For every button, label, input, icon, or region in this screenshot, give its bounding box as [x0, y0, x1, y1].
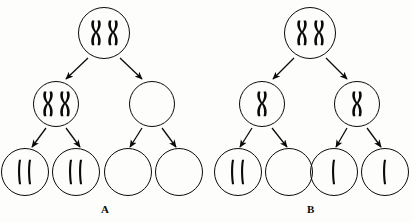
panel-a-gamete-2 [52, 148, 100, 196]
panel-a-arrow-left-to-g1 [32, 128, 46, 147]
cell-division-diagram: AB [0, 0, 412, 222]
rod-chromosome-icon [68, 159, 75, 185]
replicated-chromosome-icon [89, 20, 103, 46]
panel-a-daughter-right [129, 81, 175, 127]
rod-chromosome-icon [78, 159, 85, 185]
panel-b-arrow-left-to-g2 [272, 128, 287, 147]
panel-b-arrow-right-to-g3 [336, 128, 347, 147]
replicated-chromosome-icon [312, 20, 326, 46]
rod-chromosome-icon [17, 159, 24, 185]
replicated-chromosome-icon [41, 91, 55, 117]
panel-b-arrow-parent-to-right [326, 58, 347, 79]
chromosome-set [79, 8, 129, 58]
panel-b-gamete-2 [265, 148, 313, 196]
chromosome-set [156, 149, 202, 195]
chromosome-set [335, 82, 379, 126]
panel-b-gamete-3 [310, 148, 358, 196]
panel-a-parent-cell [78, 7, 130, 59]
rod-chromosome-icon [331, 159, 338, 185]
chromosome-set [2, 149, 48, 195]
panel-a-arrow-left-to-g2 [66, 128, 80, 147]
panel-label-b: B [307, 203, 315, 215]
panel-b-arrow-right-to-g4 [367, 128, 381, 147]
rod-chromosome-icon [230, 159, 237, 185]
chromosome-set [362, 149, 408, 195]
panel-a-arrow-parent-to-left [66, 58, 88, 79]
panel-a-gamete-3 [104, 148, 152, 196]
chromosome-set [105, 149, 151, 195]
panel-b-gamete-4 [361, 148, 409, 196]
replicated-chromosome-icon [255, 91, 269, 117]
replicated-chromosome-icon [106, 20, 120, 46]
panel-b-daughter-right [334, 81, 380, 127]
chromosome-set [53, 149, 99, 195]
chromosome-set [130, 82, 174, 126]
panel-a-gamete-1 [1, 148, 49, 196]
panel-a-arrow-parent-to-right [120, 58, 142, 79]
chromosome-set [311, 149, 357, 195]
chromosome-set [240, 82, 284, 126]
panel-b-arrow-left-to-g1 [240, 128, 252, 147]
panel-b-gamete-1 [214, 148, 262, 196]
panel-b-parent-cell [284, 7, 336, 59]
panel-a-gamete-4 [155, 148, 203, 196]
panel-label-a: A [101, 203, 109, 215]
panel-b-arrow-parent-to-left [273, 58, 294, 79]
chromosome-set [215, 149, 261, 195]
rod-chromosome-icon [27, 159, 34, 185]
replicated-chromosome-icon [350, 91, 364, 117]
panel-a-daughter-left [33, 81, 79, 127]
replicated-chromosome-icon [58, 91, 72, 117]
rod-chromosome-icon [382, 159, 389, 185]
chromosome-set [266, 149, 312, 195]
panel-a-arrow-right-to-g4 [162, 128, 176, 147]
chromosome-set [285, 8, 335, 58]
replicated-chromosome-icon [295, 20, 309, 46]
chromosome-set [34, 82, 78, 126]
panel-a-arrow-right-to-g3 [130, 128, 142, 147]
rod-chromosome-icon [240, 159, 247, 185]
panel-b-daughter-left [239, 81, 285, 127]
